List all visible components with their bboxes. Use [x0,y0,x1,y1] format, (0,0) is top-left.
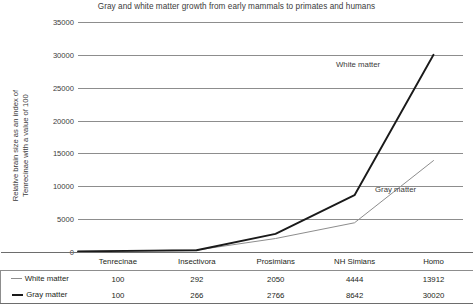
chart-figure: Gray and white matter growth from early … [0,0,473,307]
table-cell: 4444 [315,271,394,288]
table-header-prosimians: Prosimians [236,253,315,271]
table-header-row: Tenrecinae Insectivora Prosimians NH Sim… [1,253,473,271]
legend-item-gray-matter: Gray matter [1,287,79,304]
y-axis-title-line-2: Tenrecinae with a value of 100 [21,41,31,251]
y-axis-title: Relative brain size as an index of Tenre… [11,41,30,251]
y-axis-tick-label-5000: 5000 [57,215,74,224]
series-line-gray-matter [78,55,434,252]
table-cell: 2050 [236,271,315,288]
series-lines [78,0,463,252]
y-axis-tick-label-25000: 25000 [53,83,74,92]
table-header-tenrecinae: Tenrecinae [79,253,158,271]
table-cell: 8642 [315,287,394,304]
table-row: White matter 100 292 2050 4444 13912 [1,271,473,288]
table-row: Gray matter 100 266 2766 8642 30020 [1,287,473,304]
legend-swatch-gray-matter-icon [12,294,23,296]
table-cell: 100 [79,271,158,288]
legend-item-white-matter: White matter [1,271,79,288]
table-header-nh-simians: NH Simians [315,253,394,271]
table-cell: 100 [79,287,158,304]
legend-label-white-matter: White matter [25,275,69,284]
y-axis-tick-label-30000: 30000 [53,50,74,59]
table-header-homo: Homo [394,253,473,271]
y-axis-title-line-1: Relative brain size as an index of [11,41,21,251]
y-axis-tick-label-10000: 10000 [53,182,74,191]
table-cell: 2766 [236,287,315,304]
table-header-corner [1,253,79,271]
table-cell: 30020 [394,287,473,304]
y-axis-tick-label-20000: 20000 [53,116,74,125]
data-table-wrapper: Tenrecinae Insectivora Prosimians NH Sim… [0,252,473,307]
y-axis-tick-label-15000: 15000 [53,149,74,158]
plot-area: 35000300002500020000150001000050000 Whit… [78,22,463,252]
data-table: Tenrecinae Insectivora Prosimians NH Sim… [0,252,473,304]
table-cell: 292 [157,271,236,288]
table-cell: 266 [157,287,236,304]
annotation-white-matter: White matter [336,60,380,69]
annotation-gray-matter: Gray matter [375,185,416,194]
legend-swatch-white-matter-icon [11,278,22,279]
table-cell: 13912 [394,271,473,288]
table-header-insectivora: Insectivora [157,253,236,271]
y-axis-tick-label-35000: 35000 [53,18,74,27]
legend-label-gray-matter: Gray matter [26,291,67,300]
